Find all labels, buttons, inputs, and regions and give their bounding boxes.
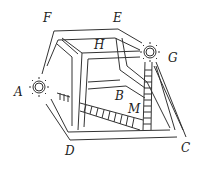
label-h: H (94, 39, 104, 51)
label-c: C (181, 142, 190, 154)
outer-frame (42, 29, 186, 140)
label-f: F (43, 12, 51, 24)
label-m: M (128, 103, 140, 115)
label-g: G (168, 52, 178, 64)
label-a: A (14, 86, 23, 98)
diagram-drawing (0, 0, 204, 171)
geometry-diagram: F E H G A B M D C (0, 0, 204, 171)
vertical-ladder (143, 62, 152, 130)
sun-lamp-icon (29, 77, 49, 97)
inner-box (57, 38, 175, 130)
label-b: B (115, 90, 124, 102)
label-d: D (65, 145, 75, 157)
sun-lamp-icon (140, 42, 160, 62)
label-e: E (113, 12, 122, 24)
